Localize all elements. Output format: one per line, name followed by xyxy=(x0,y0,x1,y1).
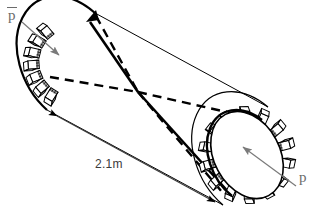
figure-canvas: p p 2.1m xyxy=(0,0,319,223)
length-dimension-line xyxy=(57,116,215,202)
near-flange-face xyxy=(196,99,297,211)
external-pressure-label: p xyxy=(8,8,16,23)
internal-pressure-label: p xyxy=(299,170,307,185)
vessel-drawing xyxy=(0,0,319,223)
external-pressure-symbol: p xyxy=(8,8,16,23)
diagonal-dashed-steep-lower xyxy=(138,92,222,192)
length-dimension-label: 2.1m xyxy=(95,158,123,170)
